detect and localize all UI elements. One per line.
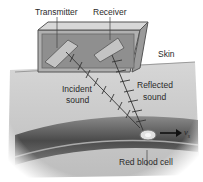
incident-sound-label-2: sound bbox=[66, 96, 89, 105]
reflected-sound-label-2: sound bbox=[143, 93, 166, 102]
incident-sound-label-1: Incident bbox=[62, 85, 92, 94]
velocity-subscript: s bbox=[188, 133, 190, 139]
red-blood-cell-label: Red blood cell bbox=[119, 158, 173, 167]
receiver-label: Receiver bbox=[93, 8, 127, 17]
velocity-label: vs bbox=[184, 128, 190, 141]
transmitter-label: Transmitter bbox=[35, 8, 78, 17]
skin-label: Skin bbox=[158, 50, 175, 59]
doppler-diagram bbox=[0, 0, 203, 182]
reflected-sound-label-1: Reflected bbox=[137, 81, 173, 90]
